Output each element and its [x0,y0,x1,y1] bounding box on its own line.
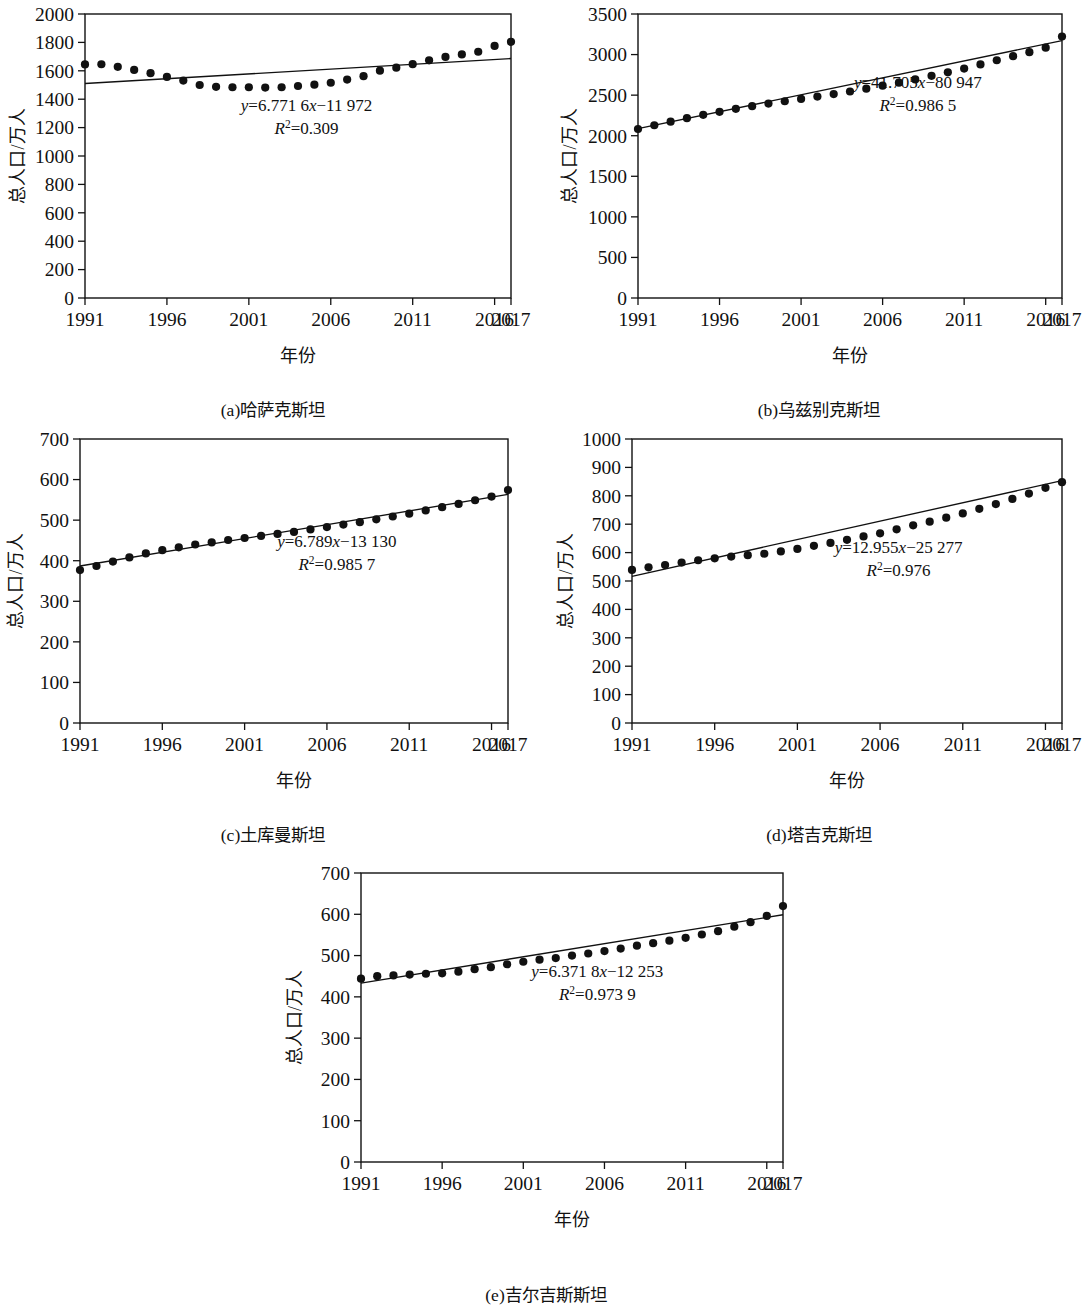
chart-panel-e: 0100200300400500600700199119962001200620… [273,855,819,1308]
data-point [698,930,706,938]
data-point [409,60,417,68]
data-point [158,546,166,554]
data-point [634,125,642,133]
y-tick-label: 1200 [35,117,74,138]
data-point [793,545,801,553]
x-tick-label: 2001 [225,734,264,755]
data-point [130,66,138,74]
x-tick-label: 1996 [695,734,734,755]
x-tick-label: 2006 [863,309,902,330]
data-point [826,539,834,547]
chart-d-caption: (d)塔吉克斯坦 [546,821,1092,846]
y-tick-label: 200 [321,1069,350,1090]
r-squared-label: R2=0.976 [866,560,931,580]
data-point [813,93,821,101]
y-tick-label: 100 [321,1111,350,1132]
data-point [109,557,117,565]
data-point [797,95,805,103]
data-point [846,87,854,95]
data-point [519,958,527,966]
chart-panel-d: 0100200300400500600700800900100019911996… [546,425,1092,850]
y-tick-label: 500 [592,571,621,592]
data-point [746,918,754,926]
r-squared-label: R2=0.973 9 [558,984,636,1004]
data-point [600,947,608,955]
data-point [504,486,512,494]
data-point [438,969,446,977]
x-tick-label: 2017 [1043,309,1082,330]
chart-a-plot: 0200400600800100012001400160018002000199… [0,0,546,398]
x-tick-label: 1991 [66,309,105,330]
data-point [471,965,479,973]
data-point [373,972,381,980]
data-point [356,518,364,526]
y-tick-label: 200 [40,632,69,653]
data-point [909,521,917,529]
data-point [257,532,265,540]
x-tick-label: 2006 [311,309,350,330]
chart-d-plot: 0100200300400500600700800900100019911996… [546,425,1092,823]
data-point [163,73,171,81]
y-tick-label: 500 [321,945,350,966]
figure-panel-grid: 0200400600800100012001400160018002000199… [0,0,1092,1308]
y-tick-label: 100 [592,684,621,705]
x-tick-label: 1996 [423,1173,462,1194]
data-point [748,102,756,110]
y-tick-label: 1500 [588,166,627,187]
x-tick-label: 2006 [861,734,900,755]
data-point [97,60,105,68]
equation-label: y=41.705x−80 947 [852,73,982,92]
data-point [376,67,384,75]
data-point [568,951,576,959]
x-tick-label: 2011 [394,309,432,330]
data-point [976,60,984,68]
x-tick-label: 2011 [666,1173,704,1194]
y-tick-label: 500 [598,247,627,268]
data-point [125,553,133,561]
data-point [114,63,122,71]
data-point [699,111,707,119]
data-point [142,549,150,557]
y-tick-label: 400 [45,231,74,252]
y-tick-label: 2000 [588,126,627,147]
y-tick-label: 0 [611,713,621,734]
data-point [732,105,740,113]
data-point [179,76,187,84]
data-point [727,552,735,560]
data-point [649,939,657,947]
y-tick-label: 0 [340,1152,350,1173]
y-tick-label: 0 [617,288,627,309]
data-point [294,82,302,90]
data-point [993,56,1001,64]
data-point [960,64,968,72]
data-point [228,83,236,91]
data-point [441,53,449,61]
y-axis-title: 总人口/万人 [556,533,576,628]
y-tick-label: 1400 [35,89,74,110]
chart-c-caption: (c)土库曼斯坦 [0,821,546,846]
data-point [779,902,787,910]
data-point [1058,32,1066,40]
chart-b-caption: (b)乌兹别克斯坦 [546,396,1092,421]
data-point [552,954,560,962]
data-point [683,114,691,122]
data-point [682,934,690,942]
chart-b-plot: 0500100015002000250030003500199119962001… [546,0,1092,398]
x-tick-label: 1991 [619,309,658,330]
data-point [359,72,367,80]
data-point [628,566,636,574]
data-point [942,514,950,522]
x-tick-label: 2001 [504,1173,543,1194]
data-point [175,543,183,551]
data-point [208,538,216,546]
data-point [1025,489,1033,497]
data-point [1041,484,1049,492]
data-point [392,64,400,72]
y-tick-label: 300 [40,591,69,612]
data-point [357,975,365,983]
data-point [959,509,967,517]
y-tick-label: 1600 [35,61,74,82]
chart-panel-b: 0500100015002000250030003500199119962001… [546,0,1092,425]
y-tick-label: 900 [592,457,621,478]
y-tick-label: 600 [321,904,350,925]
